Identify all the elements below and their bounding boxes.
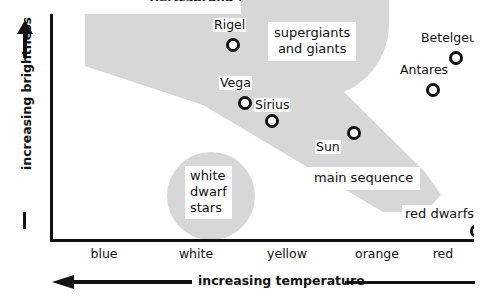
x-axis-tick-labels: blue white yellow orange red [50,246,474,264]
x-tick-blue: blue [90,246,117,261]
white-dwarf-line-3: stars [190,200,227,216]
white-dwarf-line-1: white [190,168,227,184]
star-label-rigel: Rigel [213,18,246,32]
white-dwarf-line-2: dwarf [190,184,227,200]
x-tick-yellow: yellow [267,246,307,261]
y-axis-title: increasing brightness [19,9,34,179]
x-axis-title: increasing temperature [198,273,365,288]
y-axis-group: increasing brightness [0,14,50,242]
x-axis-line [50,239,474,242]
star-label-betelgeuse: Betelgeuse [420,31,474,45]
plot-area: supergiants and giants white dwarf stars… [53,0,474,239]
region-label-supergiants: supergiants and giants [268,22,356,61]
supergiants-line-1: supergiants [274,25,350,40]
region-label-red-dwarfs: red dwarfs [402,205,474,224]
x-axis-trailing-line [345,281,475,284]
region-label-main-sequence: main sequence [307,167,420,190]
star-marker-sun[interactable] [347,126,361,140]
star-label-vega: Vega [219,76,252,90]
x-tick-red: red [433,246,454,261]
supergiants-line-2: and giants [274,41,350,57]
star-marker-sirius[interactable] [265,114,279,128]
white-dwarf-region [53,0,474,239]
x-tick-orange: orange [355,246,399,261]
star-label-sun: Sun [315,140,341,154]
left-arrow-icon [52,275,192,289]
x-tick-white: white [179,246,213,261]
x-axis-title-row: increasing temperature [0,271,496,295]
star-label-sirius: Sirius [254,98,290,112]
y-axis-lower-tick [23,212,26,229]
region-label-white-dwarf-stars: white dwarf stars [185,166,232,219]
star-marker-vega[interactable] [238,96,252,110]
star-marker-antares[interactable] [426,83,440,97]
hr-diagram: Hertzsprung-Russell diagram increasing b… [0,0,496,302]
star-label-antares: Antares [399,63,449,77]
star-marker-rigel[interactable] [226,38,240,52]
star-marker-betelgeuse[interactable] [449,51,463,65]
